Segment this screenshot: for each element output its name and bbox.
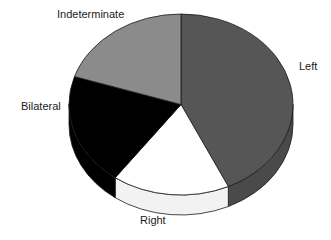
pie-slices-group [69, 14, 293, 215]
slice-label-right: Right [140, 214, 166, 226]
slice-label-indeterminate: Indeterminate [57, 8, 124, 20]
pie-chart-canvas [0, 0, 331, 240]
slice-label-bilateral: Bilateral [21, 100, 61, 112]
slice-label-left: Left [299, 60, 317, 72]
pie-chart-figure: Indeterminate Left Bilateral Right [0, 0, 331, 240]
